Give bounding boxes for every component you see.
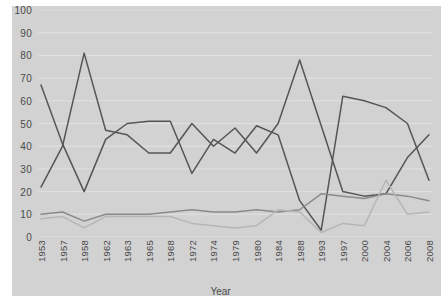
- x-axis-tick-label: 1968: [165, 240, 176, 262]
- x-axis-tick-labels: 1953195719581962196319651968197219741979…: [38, 240, 432, 286]
- x-axis-tick-label: 1953: [36, 240, 47, 262]
- x-axis-tick-label: 1965: [144, 240, 155, 262]
- top-white-strip: [0, 0, 441, 6]
- x-axis-tick-label: 1980: [252, 240, 263, 262]
- x-axis-tick-label: 1997: [338, 240, 349, 262]
- x-axis-tick-label: 2008: [424, 240, 435, 262]
- series-line-series-3: [41, 194, 429, 221]
- x-axis-title: Year: [0, 286, 441, 297]
- y-axis-tick-label: 100: [14, 5, 32, 16]
- bottom-white-strip: [0, 296, 441, 307]
- x-axis-tick-label: 1962: [101, 240, 112, 262]
- plot-area: [38, 10, 432, 237]
- x-axis-tick-label: 1958: [79, 240, 90, 262]
- x-axis-tick-label: 1988: [295, 240, 306, 262]
- x-axis-tick-label: 2006: [402, 240, 413, 262]
- x-axis-tick-label: 1963: [122, 240, 133, 262]
- x-axis-tick-label: 1984: [273, 240, 284, 262]
- x-axis-tick-label: 2000: [359, 240, 370, 262]
- plot-svg: [38, 10, 432, 237]
- y-axis-tick-label: 10: [20, 209, 32, 220]
- x-axis-tick-label: 1957: [58, 240, 69, 262]
- line-chart: 0102030405060708090100 19531957195819621…: [0, 0, 441, 307]
- x-axis-tick-label: 1974: [208, 240, 219, 262]
- x-axis-tick-label: 2004: [381, 240, 392, 262]
- series-line-series-4: [41, 180, 429, 232]
- y-axis-tick-label: 80: [20, 50, 32, 61]
- y-axis-tick-label: 0: [26, 232, 32, 243]
- y-axis-tick-label: 40: [20, 141, 32, 152]
- x-axis-tick-label: 1972: [187, 240, 198, 262]
- x-axis-tick-label: 1993: [316, 240, 327, 262]
- series-line-series-2: [41, 53, 429, 196]
- y-axis-tick-label: 50: [20, 118, 32, 129]
- x-axis-tick-label: 1979: [230, 240, 241, 262]
- y-axis-tick-label: 70: [20, 73, 32, 84]
- y-axis-tick-label: 90: [20, 27, 32, 38]
- y-axis-tick-labels: 0102030405060708090100: [0, 0, 36, 247]
- y-axis-tick-label: 60: [20, 95, 32, 106]
- y-axis-tick-label: 30: [20, 163, 32, 174]
- y-axis-tick-label: 20: [20, 186, 32, 197]
